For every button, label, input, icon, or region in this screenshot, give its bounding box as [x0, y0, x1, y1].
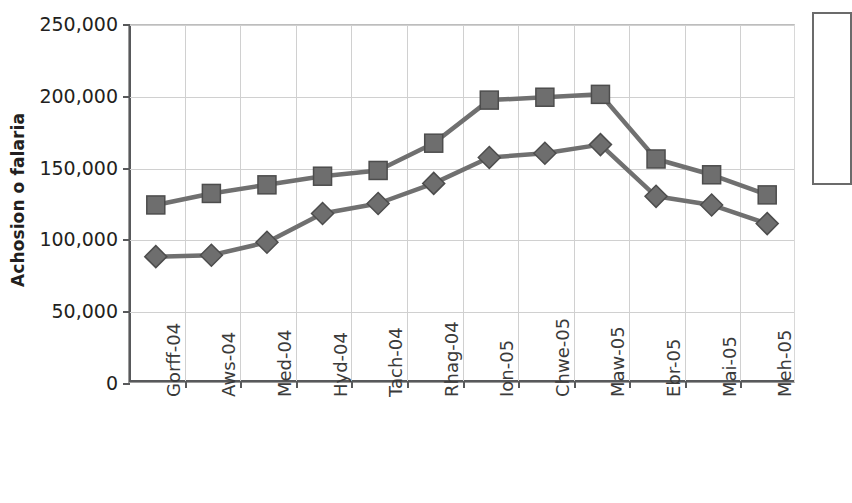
data-point-diamond	[367, 193, 389, 215]
data-point-diamond	[312, 203, 334, 225]
data-point-square	[258, 176, 276, 194]
data-point-diamond	[200, 244, 222, 266]
data-point-square	[647, 150, 665, 168]
y-axis-tick-label: 150,000	[39, 157, 118, 179]
x-axis-tick-label: Rhag-04	[441, 321, 462, 397]
x-axis-tick-labels: Gorff-04Aws-04Med-04Hyd-04Tach-04Rhag-04…	[128, 383, 795, 503]
x-axis-tick-label: Aws-04	[218, 332, 239, 397]
data-point-diamond	[534, 142, 556, 164]
series-line	[156, 145, 767, 257]
data-point-square	[591, 85, 609, 103]
x-axis-tick-label: Tach-04	[385, 327, 406, 397]
data-point-diamond	[256, 231, 278, 253]
series-square	[147, 85, 776, 214]
series-line	[156, 94, 767, 205]
x-axis-tick-label: Meh-05	[774, 330, 795, 397]
data-point-diamond	[756, 213, 778, 235]
data-point-square	[369, 161, 387, 179]
x-axis-tick-label: Ion-05	[496, 340, 517, 397]
y-axis-tick-label: 100,000	[39, 228, 118, 250]
data-point-square	[758, 186, 776, 204]
legend-box	[812, 12, 852, 185]
data-point-square	[147, 196, 165, 214]
data-point-square	[703, 166, 721, 184]
data-point-square	[202, 184, 220, 202]
data-point-square	[480, 91, 498, 109]
y-axis-tick-label: 0	[106, 372, 118, 394]
x-axis-tick-label: Mai-05	[719, 336, 740, 397]
x-axis-tick-label: Chwe-05	[552, 318, 573, 397]
y-axis-title: Achosion o falaria	[0, 0, 36, 400]
data-point-square	[536, 88, 554, 106]
x-axis-tick-label: Hyd-04	[330, 332, 351, 397]
x-axis-tick-label: Maw-05	[607, 326, 628, 397]
data-point-diamond	[423, 172, 445, 194]
data-point-square	[314, 167, 332, 185]
data-point-diamond	[145, 246, 167, 268]
y-axis-tick-label: 200,000	[39, 85, 118, 107]
y-axis-title-text: Achosion o falaria	[8, 113, 28, 287]
x-axis-tick-label: Gorff-04	[163, 323, 184, 397]
x-axis-tick-label: Med-04	[274, 330, 295, 397]
data-point-diamond	[478, 147, 500, 169]
y-axis-tick-label: 250,000	[39, 13, 118, 35]
data-point-diamond	[701, 194, 723, 216]
y-axis-tick-label: 50,000	[52, 300, 118, 322]
y-axis-tick-labels: 250,000200,000150,000100,00050,0000	[36, 0, 124, 400]
series-diamond	[145, 134, 778, 268]
data-point-square	[425, 134, 443, 152]
x-axis-tick-label: Ebr-05	[663, 339, 684, 397]
